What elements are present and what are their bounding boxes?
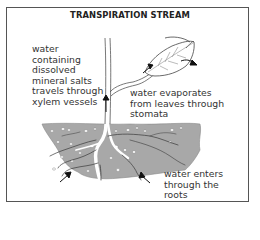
label-leaves: water evaporates from leaves through sto… (130, 88, 224, 120)
label-roots: water enters through the roots (164, 169, 223, 201)
arrow-up-stem (103, 95, 109, 100)
leaf (145, 37, 194, 76)
label-xylem: water containing dissolved mineral salts… (32, 44, 103, 108)
